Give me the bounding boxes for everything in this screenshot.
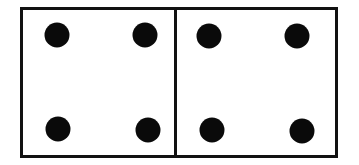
right-panel-dot <box>200 118 225 143</box>
right-panel-dot <box>290 119 315 144</box>
left-panel-dot <box>46 117 71 142</box>
left-panel-dot <box>45 23 70 48</box>
left-panel-dot <box>133 23 158 48</box>
right-panel-dot <box>285 24 310 49</box>
left-panel-dot <box>136 118 161 143</box>
right-panel-dot <box>197 24 222 49</box>
